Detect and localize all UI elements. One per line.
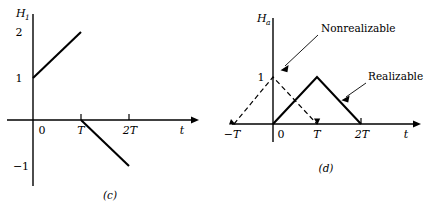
y-tick-label-2-c: 2	[16, 26, 23, 39]
panel-caption-d: (d)	[319, 162, 334, 174]
annotation-realizable-d: Realizable	[368, 70, 423, 82]
x-tick-label-T-c: T	[77, 124, 86, 137]
realizable-leader-line-d	[346, 83, 366, 97]
chart-c-canvas: H 1 2 1 −1 0 T 2T t (c)	[0, 0, 218, 211]
nonrealizable-left-arrowhead-d	[229, 119, 236, 125]
y-axis-subscript-c: 1	[25, 13, 30, 22]
x-tick-label-0-c: 0	[39, 124, 46, 137]
y-tick-label-1-d: 1	[258, 71, 265, 84]
chart-d-canvas: H a 1 −T 0 T 2T t Nonrealizable Realizab…	[218, 0, 436, 211]
series-rising-segment-c	[33, 32, 81, 78]
series-falling-segment-c	[81, 120, 129, 166]
x-axis-arrowhead-d	[413, 121, 421, 128]
nonrealizable-leader-arrowhead-d	[281, 65, 289, 72]
y-axis-subscript-d: a	[266, 18, 270, 27]
x-tick-label-0-d: 0	[278, 128, 285, 141]
x-tick-label-T-d: T	[313, 128, 322, 141]
chart-panel-c: H 1 2 1 −1 0 T 2T t (c)	[0, 0, 218, 211]
x-tick-label-2T-c: 2T	[122, 124, 139, 137]
series-nonrealizable-d	[234, 77, 317, 124]
figure-sheet: H 1 2 1 −1 0 T 2T t (c)	[0, 0, 436, 211]
y-tick-label-neg1-c: −1	[13, 160, 29, 173]
x-axis-name-c: t	[180, 124, 185, 137]
chart-panel-d: H a 1 −T 0 T 2T t Nonrealizable Realizab…	[218, 0, 436, 211]
nonrealizable-leader-line-d	[285, 35, 318, 66]
x-tick-label-2T-d: 2T	[354, 128, 371, 141]
x-tick-label-negT-d: −T	[224, 128, 242, 141]
annotation-nonrealizable-d: Nonrealizable	[321, 22, 396, 34]
realizable-leader-arrowhead-d	[341, 95, 349, 102]
x-axis-name-d: t	[404, 128, 409, 141]
x-axis-arrowhead-c	[191, 117, 199, 124]
panel-caption-c: (c)	[103, 189, 117, 201]
y-tick-label-1-c: 1	[16, 72, 23, 85]
